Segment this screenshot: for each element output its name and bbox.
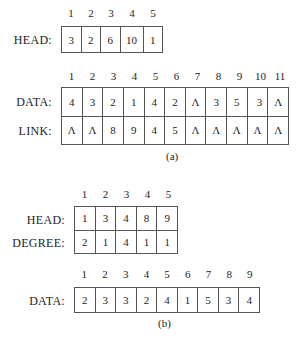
index-label: 7: [187, 70, 208, 82]
head-b-cell: 3: [95, 207, 116, 231]
data-cell: Λ: [268, 88, 289, 117]
data-cell: 2: [103, 88, 124, 117]
degree-cell: 1: [157, 230, 178, 254]
head-b-cell: 1: [75, 207, 96, 231]
degree-cell: 2: [75, 230, 96, 254]
head-a-index-row: 1 2 3 4 5: [61, 7, 163, 19]
index-label: 1: [74, 268, 95, 280]
index-label: 6: [177, 268, 198, 280]
data-link-index-row: 1 2 3 4 5 6 7 8 9 10 11: [61, 70, 289, 82]
link-cell: Λ: [206, 116, 227, 145]
head-a-cell: 3: [62, 27, 82, 53]
data-cell: 1: [123, 88, 144, 117]
degree-cell: 1: [136, 230, 157, 254]
data-b-cell: 3: [95, 288, 116, 313]
data-b-index-row: 1 2 3 4 5 6 7 8 9: [74, 268, 260, 280]
data-cell: 3: [247, 88, 268, 117]
head-b-cell: 4: [116, 207, 137, 231]
index-label: 9: [229, 70, 250, 82]
index-label: 11: [271, 70, 289, 82]
index-label: 2: [82, 70, 103, 82]
head-b-label: HEAD:: [0, 213, 65, 228]
link-cell: Λ: [82, 116, 103, 145]
index-label: 9: [240, 268, 261, 280]
degree-label: DEGREE:: [0, 236, 65, 251]
data-cell: 2: [165, 88, 186, 117]
head-row: 1 3 4 8 9: [75, 207, 178, 231]
data-b-label: DATA:: [0, 294, 65, 309]
index-label: 8: [219, 268, 240, 280]
index-label: 1: [74, 188, 95, 200]
index-label: 10: [250, 70, 271, 82]
degree-cell: 4: [116, 230, 137, 254]
data-cell: 3: [82, 88, 103, 117]
head-b-cell: 9: [157, 207, 178, 231]
head-a-label: HEAD:: [0, 33, 52, 48]
link-cell: Λ: [62, 116, 83, 145]
data-b-cell: 2: [75, 288, 96, 313]
index-label: 5: [157, 268, 178, 280]
data-row: 4 3 2 1 4 2 Λ 3 5 3 Λ: [62, 88, 289, 117]
index-label: 4: [124, 70, 145, 82]
caption-b: (b): [158, 317, 171, 329]
data-cell: 4: [62, 88, 83, 117]
index-label: 6: [166, 70, 187, 82]
data-cell: 5: [227, 88, 248, 117]
head-b-cell: 8: [136, 207, 157, 231]
index-label: 3: [116, 188, 137, 200]
link-cell: 9: [123, 116, 144, 145]
index-label: 7: [198, 268, 219, 280]
data-b-cell: 4: [157, 288, 178, 313]
head-a-cell: 2: [81, 27, 101, 53]
index-label: 5: [143, 7, 163, 19]
head-degree-array: 1 3 4 8 9 2 1 4 1 1: [74, 206, 178, 254]
data-cell: Λ: [185, 88, 206, 117]
caption-a: (a): [166, 150, 178, 162]
index-label: 2: [81, 7, 101, 19]
link-cell: Λ: [185, 116, 206, 145]
link-cell: 5: [165, 116, 186, 145]
index-label: 4: [121, 7, 143, 19]
data-cell: 4: [144, 88, 165, 117]
head-a-cell: 6: [101, 27, 121, 53]
data-b-cell: 1: [177, 288, 198, 313]
link-cell: 4: [144, 116, 165, 145]
link-cell: 8: [103, 116, 124, 145]
index-label: 3: [103, 70, 124, 82]
index-label: 2: [95, 268, 116, 280]
degree-cell: 1: [95, 230, 116, 254]
data-b-array: 2 3 3 2 4 1 5 3 4: [74, 287, 260, 313]
data-b-cell: 4: [239, 288, 260, 313]
data-b-cell: 3: [218, 288, 239, 313]
data-cell: 3: [206, 88, 227, 117]
data-a-label: DATA:: [0, 95, 52, 110]
index-label: 1: [61, 7, 81, 19]
link-cell: Λ: [268, 116, 289, 145]
index-label: 3: [101, 7, 121, 19]
index-label: 5: [145, 70, 166, 82]
link-cell: Λ: [227, 116, 248, 145]
index-label: 4: [136, 268, 157, 280]
index-label: 5: [158, 188, 179, 200]
index-label: 4: [137, 188, 158, 200]
data-b-cell: 5: [198, 288, 219, 313]
data-b-cell: 2: [136, 288, 157, 313]
index-label: 3: [115, 268, 136, 280]
head-a-array: 3 2 6 10 1: [61, 26, 163, 53]
link-row: Λ Λ 8 9 4 5 Λ Λ Λ Λ Λ: [62, 116, 289, 145]
index-label: 1: [61, 70, 82, 82]
link-a-label: LINK:: [0, 124, 52, 139]
head-a-cell: 10: [120, 27, 143, 53]
link-cell: Λ: [247, 116, 268, 145]
degree-row: 2 1 4 1 1: [75, 230, 178, 254]
index-label: 8: [208, 70, 229, 82]
index-label: 2: [95, 188, 116, 200]
head-a-cell: 1: [143, 27, 163, 53]
data-link-array: 4 3 2 1 4 2 Λ 3 5 3 Λ Λ Λ 8 9 4 5 Λ Λ Λ …: [61, 87, 289, 145]
data-b-cell: 3: [116, 288, 137, 313]
head-degree-index-row: 1 2 3 4 5: [74, 188, 179, 200]
